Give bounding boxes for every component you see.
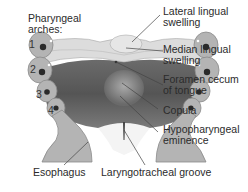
arch-number-3: 3 — [36, 88, 42, 100]
label-hypopharyngeal-eminence-1: Hypopharyngeal — [163, 124, 239, 134]
copula — [104, 70, 144, 106]
label-copula: Copula — [163, 105, 196, 115]
label-laryngotracheal-groove: Laryngotracheal groove — [101, 167, 211, 177]
arch-number-1: 1 — [29, 38, 35, 50]
label-median-lingual-swelling-2: swelling — [163, 55, 200, 65]
arch-number-4: 4 — [48, 104, 54, 116]
label-hypopharyngeal-eminence-2: eminence — [163, 135, 209, 145]
label-median-lingual-swelling-1: Median lingual — [163, 44, 231, 54]
label-esophagus: Esophagus — [33, 167, 86, 177]
label-lateral-lingual-swelling-1: Lateral lingual — [163, 6, 228, 16]
label-foramen-cecum-1: Foramen cecum — [163, 74, 239, 84]
median-swelling — [110, 35, 142, 53]
arch-heading-line1: Pharyngeal — [28, 13, 81, 23]
label-foramen-cecum-2: of tongue — [163, 85, 207, 95]
label-lateral-lingual-swelling-2: swelling — [163, 17, 200, 27]
arch-number-2: 2 — [30, 63, 36, 75]
arch-heading-line2: arches: — [28, 24, 62, 34]
